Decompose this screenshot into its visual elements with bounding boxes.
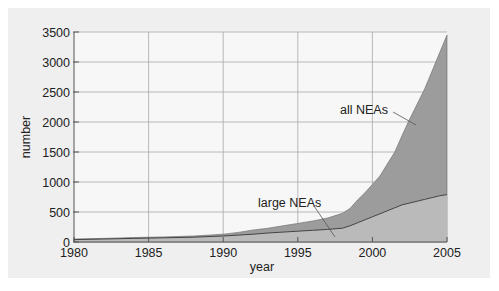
area-chart: 0500100015002000250030003500198019851990… (0, 0, 499, 291)
x-tick-label: 2000 (358, 246, 386, 260)
y-axis-label: number (19, 116, 33, 158)
annotation-large-neas: large NEAs (258, 196, 321, 210)
x-tick-label: 1980 (60, 246, 88, 260)
y-tick-label: 3000 (42, 56, 70, 70)
x-tick-label: 1985 (135, 246, 163, 260)
x-tick-label: 2005 (433, 246, 461, 260)
annotation-all-neas: all NEAs (340, 103, 388, 117)
x-axis-label: year (250, 260, 274, 274)
x-tick-label: 1990 (209, 246, 237, 260)
y-tick-label: 1000 (42, 176, 70, 190)
y-tick-label: 2000 (42, 116, 70, 130)
y-tick-label: 2500 (42, 86, 70, 100)
y-tick-label: 500 (49, 206, 70, 220)
y-tick-label: 1500 (42, 146, 70, 160)
x-tick-label: 1995 (284, 246, 312, 260)
y-tick-label: 3500 (42, 26, 70, 40)
